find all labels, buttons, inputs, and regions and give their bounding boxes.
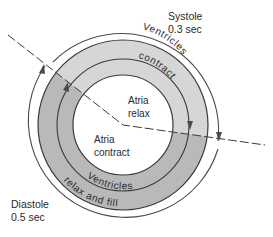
atria-contract-line2: contract xyxy=(94,147,130,158)
cardiac-cycle-diagram: Ventricles contract Ventricles relax and… xyxy=(0,0,273,237)
arrow-down-icon xyxy=(216,132,222,141)
systole-label: Systole xyxy=(168,10,203,22)
atria-relax-line1: Atria xyxy=(128,95,149,106)
diastole-label: Diastole xyxy=(11,198,49,210)
diastole-duration: 0.5 sec xyxy=(11,211,45,223)
systole-duration: 0.3 sec xyxy=(168,23,202,35)
atria-relax-line2: relax xyxy=(128,108,150,119)
arrow-up-icon xyxy=(39,64,45,74)
atria-contract-line1: Atria xyxy=(94,134,115,145)
